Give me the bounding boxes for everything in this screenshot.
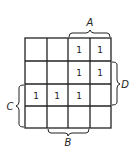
cell-1-3: 1 — [97, 68, 103, 78]
brace-c — [16, 85, 24, 127]
cell-2-2: 1 — [76, 91, 82, 101]
cell-2-1: 1 — [54, 91, 60, 101]
brace-c-label: C — [7, 101, 14, 112]
cell-1-2: 1 — [76, 68, 82, 78]
karnaugh-map: 1 1 1 1 1 1 1 A D C B — [0, 0, 136, 155]
brace-b — [48, 129, 89, 136]
brace-a — [69, 30, 110, 37]
brace-d — [112, 62, 120, 105]
brace-a-label: A — [86, 17, 94, 28]
brace-d-label: D — [121, 79, 129, 90]
cell-0-2: 1 — [76, 45, 82, 55]
brace-b-label: B — [65, 137, 72, 148]
cell-2-0: 1 — [33, 91, 39, 101]
cell-0-3: 1 — [97, 45, 103, 55]
